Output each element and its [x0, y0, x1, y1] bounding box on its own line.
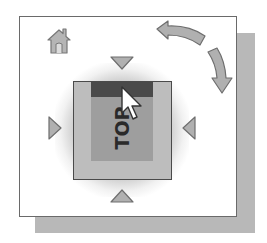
triangle-right-icon [48, 116, 62, 140]
home-icon [44, 26, 74, 56]
triangle-up-icon [110, 189, 134, 203]
mouse-pointer-icon [120, 86, 144, 122]
nav-right-button[interactable] [182, 116, 196, 140]
triangle-left-icon [182, 116, 196, 140]
mouse-cursor [120, 86, 144, 122]
home-button[interactable] [44, 26, 74, 56]
nav-left-button[interactable] [48, 116, 62, 140]
nav-up-button[interactable] [110, 56, 134, 70]
rotate-arrow-icon [155, 20, 210, 48]
nav-down-button[interactable] [110, 189, 134, 203]
rotate-arrow-icon [205, 47, 235, 95]
triangle-down-icon [110, 56, 134, 70]
rotate-counterclockwise-button[interactable] [155, 20, 210, 48]
rotate-clockwise-button[interactable] [205, 47, 235, 95]
